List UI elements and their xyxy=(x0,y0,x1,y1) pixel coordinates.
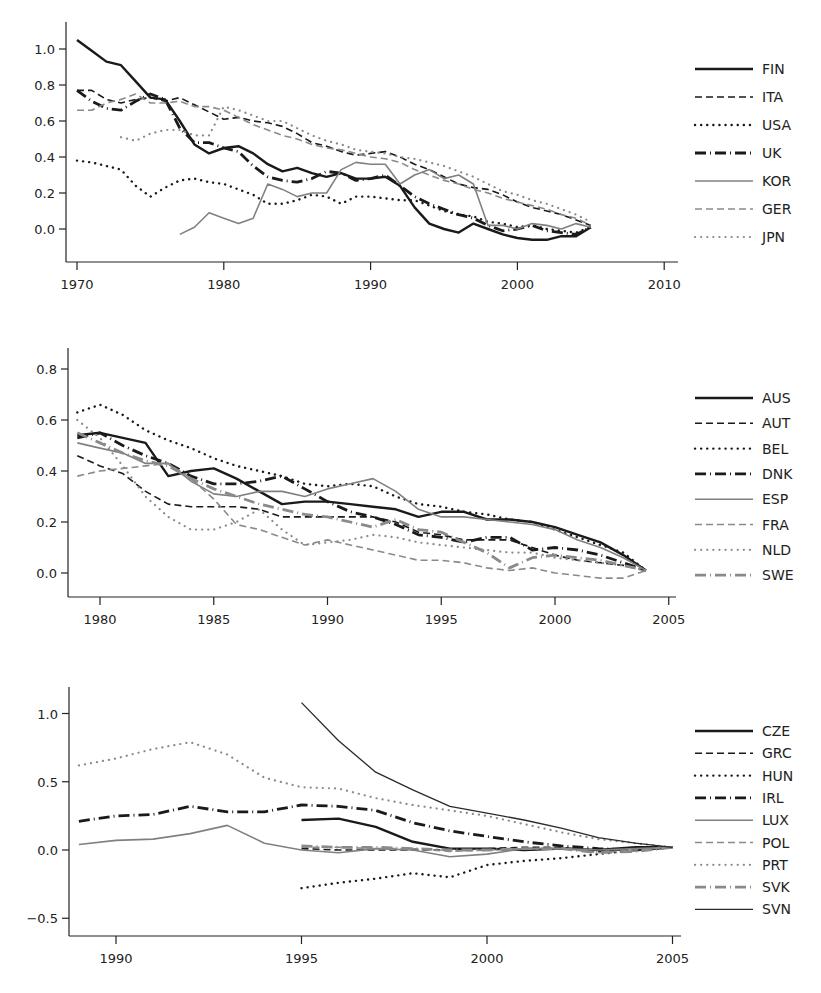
legend-item-fin: FIN xyxy=(695,61,785,77)
series-group xyxy=(77,40,591,240)
x-tick-label: 1990 xyxy=(311,612,344,627)
legend-item-uk: UK xyxy=(695,145,782,161)
series-line-prt xyxy=(79,742,673,847)
legend-label: DNK xyxy=(762,466,793,482)
series-line-cze xyxy=(302,819,673,850)
y-tick-label: 0.4 xyxy=(36,464,57,479)
legend-item-kor: KOR xyxy=(695,173,791,189)
y-tick-label: 0.5 xyxy=(37,775,58,790)
series-line-aus xyxy=(77,433,646,571)
series-line-swe xyxy=(77,433,646,571)
legend-label: NLD xyxy=(762,542,791,558)
y-tick-label: 0.8 xyxy=(36,362,57,377)
legend-label: GRC xyxy=(762,745,792,761)
legend-label: FIN xyxy=(762,61,785,77)
legend-item-cze: CZE xyxy=(695,723,790,739)
legend-label: USA xyxy=(762,117,791,133)
legend-item-jpn: JPN xyxy=(695,229,785,245)
legend-item-svk: SVK xyxy=(695,879,790,895)
legend-item-aus: AUS xyxy=(695,390,791,406)
x-tick-label: 1985 xyxy=(197,612,230,627)
legend-item-nld: NLD xyxy=(695,542,791,558)
y-tick-label: 0.2 xyxy=(36,515,57,530)
legend-label: HUN xyxy=(762,768,793,784)
x-tick-label: 1995 xyxy=(425,612,458,627)
x-tick-label: 1990 xyxy=(99,951,132,966)
legend: CZEGRCHUNIRLLUXPOLPRTSVKSVN xyxy=(695,723,793,917)
x-tick-label: 2000 xyxy=(501,277,534,292)
series-line-fin xyxy=(77,40,591,240)
x-tick-label: 2010 xyxy=(648,277,681,292)
x-tick-label: 2000 xyxy=(470,951,503,966)
legend-label: SVN xyxy=(762,901,791,917)
legend-label: AUS xyxy=(762,390,791,406)
legend-item-grc: GRC xyxy=(695,745,792,761)
legend-item-bel: BEL xyxy=(695,441,788,457)
y-tick-label: 1.0 xyxy=(34,42,55,57)
legend-item-lux: LUX xyxy=(695,812,789,828)
legend-label: JPN xyxy=(761,229,785,245)
x-tick-label: 1970 xyxy=(60,277,93,292)
legend-label: FRA xyxy=(762,517,789,533)
series-line-ita xyxy=(77,90,591,225)
series-line-esp xyxy=(77,443,646,571)
series-line-bel xyxy=(77,405,646,571)
legend-label: UK xyxy=(762,145,782,161)
legend-label: CZE xyxy=(762,723,790,739)
legend-label: LUX xyxy=(762,812,789,828)
legend-item-pol: POL xyxy=(695,835,789,851)
legend-label: SWE xyxy=(762,567,794,583)
x-tick-label: 1980 xyxy=(83,612,116,627)
y-tick-label: −0.5 xyxy=(26,911,58,926)
legend-item-prt: PRT xyxy=(695,857,788,873)
series-line-jpn xyxy=(121,107,591,222)
legend-label: AUT xyxy=(762,415,791,431)
legend-item-usa: USA xyxy=(695,117,791,133)
y-tick-label: 0.0 xyxy=(36,566,57,581)
legend-label: ITA xyxy=(762,89,784,105)
y-tick-label: 0.0 xyxy=(34,222,55,237)
legend-item-aut: AUT xyxy=(695,415,791,431)
y-tick-label: 0.8 xyxy=(34,78,55,93)
legend: FINITAUSAUKKORGERJPN xyxy=(695,61,792,245)
y-tick-label: 0.6 xyxy=(36,413,57,428)
legend-item-ger: GER xyxy=(695,201,792,217)
series-line-uk xyxy=(77,90,591,234)
x-tick-label: 1995 xyxy=(285,951,318,966)
y-tick-label: 0.2 xyxy=(34,186,55,201)
legend-label: ESP xyxy=(762,491,788,507)
x-tick-label: 1980 xyxy=(207,277,240,292)
legend: AUSAUTBELDNKESPFRANLDSWE xyxy=(695,390,794,583)
legend-item-hun: HUN xyxy=(695,768,793,784)
series-line-svn xyxy=(302,703,673,848)
figure: 0.00.20.40.60.81.019701980199020002010FI… xyxy=(0,0,821,993)
x-tick-label: 1990 xyxy=(354,277,387,292)
y-tick-label: 1.0 xyxy=(37,707,58,722)
y-tick-label: 0.6 xyxy=(34,114,55,129)
legend-label: GER xyxy=(762,201,792,217)
x-tick-label: 2005 xyxy=(656,951,689,966)
legend-item-esp: ESP xyxy=(695,491,788,507)
legend-item-dnk: DNK xyxy=(695,466,793,482)
series-group xyxy=(77,405,646,578)
series-group xyxy=(79,703,673,889)
y-tick-label: 0.4 xyxy=(34,150,55,165)
x-tick-label: 2005 xyxy=(652,612,685,627)
panel-top-chart: 0.00.20.40.60.81.019701980199020002010FI… xyxy=(34,22,791,292)
legend-item-ita: ITA xyxy=(695,89,784,105)
legend-item-svn: SVN xyxy=(695,901,791,917)
legend-label: POL xyxy=(762,835,789,851)
series-line-ger xyxy=(77,94,591,225)
legend-label: BEL xyxy=(762,441,788,457)
legend-label: PRT xyxy=(762,857,788,873)
panel-middle-chart: 0.00.20.40.60.8198019851990199520002005A… xyxy=(36,348,793,627)
legend-label: IRL xyxy=(762,790,784,806)
legend-label: KOR xyxy=(762,173,791,189)
legend-item-irl: IRL xyxy=(695,790,784,806)
panel-bottom-chart: −0.50.00.51.01990199520002005CZEGRCHUNIR… xyxy=(26,687,793,966)
legend-label: SVK xyxy=(762,879,790,895)
series-line-dnk xyxy=(77,433,646,571)
legend-item-swe: SWE xyxy=(695,567,794,583)
legend-item-fra: FRA xyxy=(695,517,789,533)
y-tick-label: 0.0 xyxy=(37,843,58,858)
